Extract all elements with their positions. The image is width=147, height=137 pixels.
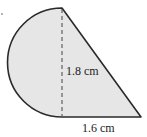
- stray-dot: [1, 13, 3, 15]
- composite-shape-diagram: 1.8 cm 1.6 cm: [0, 0, 147, 137]
- base-label: 1.6 cm: [82, 121, 115, 135]
- composite-shape: [8, 8, 141, 117]
- height-label: 1.8 cm: [66, 64, 99, 78]
